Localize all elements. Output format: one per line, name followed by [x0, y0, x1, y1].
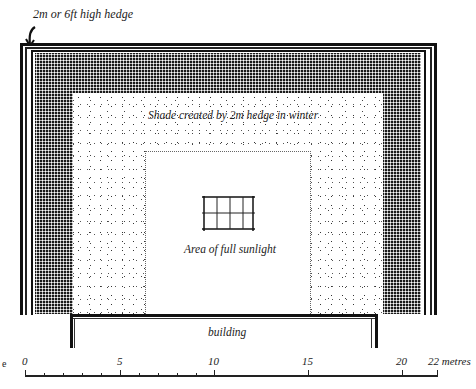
building-wall-left-inner: [74, 318, 75, 348]
building-wall-right: [375, 314, 378, 348]
margin-letter: e: [2, 358, 6, 369]
sunlight-label: Area of full sunlight: [184, 243, 276, 255]
hedge-annotation: 2m or 6ft high hedge: [33, 7, 133, 22]
building-wall: [70, 314, 378, 317]
scale-label-0: 0: [22, 355, 28, 367]
scale-label-10: 10: [208, 355, 219, 367]
scale-bar: [25, 375, 437, 377]
scale-label-22: 22 metres: [428, 355, 471, 367]
building-wall-inner: [72, 318, 376, 319]
full-sunlight-zone: [145, 151, 311, 314]
scale-label-5: 5: [117, 355, 123, 367]
building-label: building: [208, 326, 246, 338]
shade-label: Shade created by 2m hedge in winter: [148, 109, 318, 121]
building-wall-right-inner: [371, 318, 372, 348]
scale-label-20: 20: [396, 355, 407, 367]
garden-bed-grid-icon: [202, 196, 255, 231]
building-wall-left: [70, 314, 73, 348]
scale-label-15: 15: [302, 355, 313, 367]
